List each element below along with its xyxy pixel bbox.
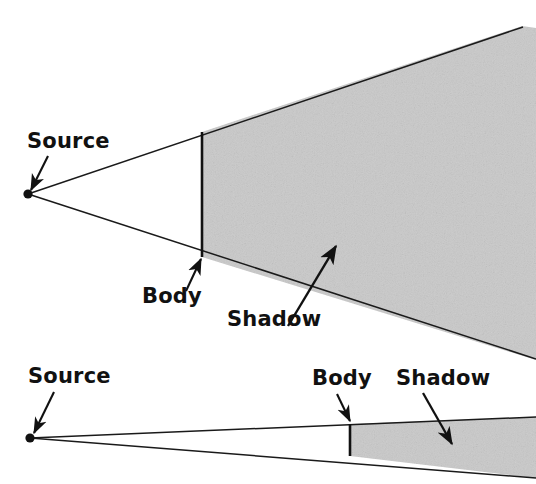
- source-point-small: [25, 433, 34, 442]
- source-point-large: [23, 189, 32, 198]
- shadow-label-small: Shadow: [396, 366, 490, 390]
- source-label-small: Source: [28, 364, 111, 388]
- body-label-small: Body: [312, 366, 372, 390]
- shadow-diagram-figure: Source Body Shadow Source Body Shadow: [0, 0, 536, 484]
- diagram-canvas: Source Body Shadow Source Body Shadow: [0, 0, 536, 484]
- shadow-label-large: Shadow: [227, 307, 321, 331]
- source-label-large: Source: [27, 129, 110, 153]
- body-label-large: Body: [142, 284, 202, 308]
